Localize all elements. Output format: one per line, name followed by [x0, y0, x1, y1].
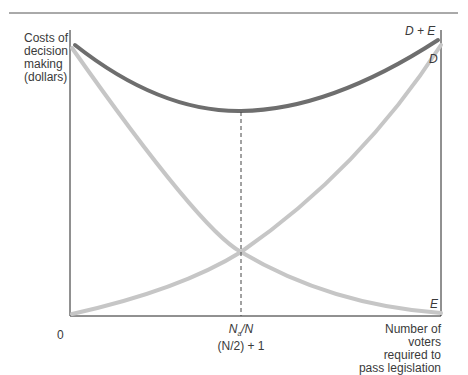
curve-d-label: D [429, 53, 438, 66]
origin-label: 0 [57, 329, 64, 342]
y-axis-label: Costs of decision making (dollars) [24, 32, 74, 84]
curve-d-plus-e [75, 40, 438, 111]
x-tick-line1: Na/N [216, 323, 266, 340]
x-tick-line2: (N/2) + 1 [216, 340, 266, 353]
x-axis-label-line: pass legislation [355, 362, 441, 375]
y-axis-label-line: (dollars) [24, 71, 74, 84]
tick-rest: /N [241, 322, 253, 336]
curve-e-label: E [430, 298, 438, 311]
curve-d [72, 45, 441, 314]
x-axis-label: Number of voters required to pass legisl… [355, 323, 441, 375]
curve-de-label: D + E [405, 25, 435, 38]
x-axis-label-line: Number of voters [355, 323, 441, 349]
x-tick-label: Na/N (N/2) + 1 [216, 323, 266, 353]
curve-e [72, 48, 441, 313]
